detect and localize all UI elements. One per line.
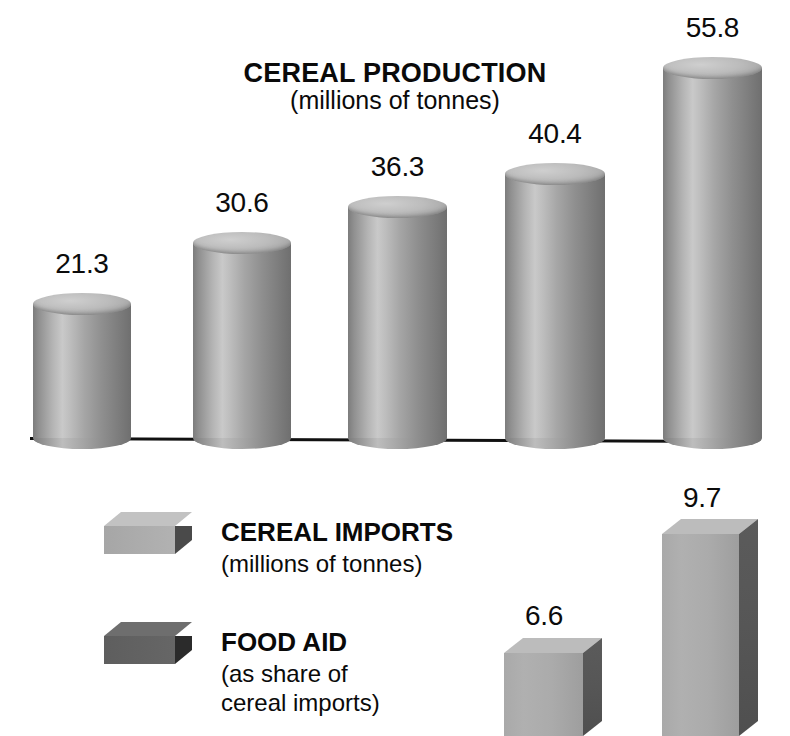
- bar-value-label-5: 55.8: [663, 12, 762, 44]
- legend-swatch-side-face: [175, 636, 192, 664]
- legend-swatch-front-face: [104, 636, 175, 664]
- legend-subtitle-food-aid-line1: (as share of: [221, 659, 348, 688]
- production-bar-2[interactable]: [193, 232, 291, 449]
- cylinder-body: [33, 304, 131, 438]
- legend-title-cereal-imports: CEREAL IMPORTS: [221, 517, 453, 548]
- bar-value-label-4: 40.4: [505, 118, 605, 150]
- box-front-face: [504, 653, 583, 736]
- bar-value-label-1: 21.3: [33, 248, 131, 280]
- legend-subtitle-food-aid-line2: cereal imports): [221, 688, 380, 717]
- legend-swatch-front-face: [104, 526, 175, 554]
- production-bar-5[interactable]: [663, 57, 762, 449]
- cylinder-top-shade: [193, 232, 291, 254]
- legend-title-food-aid: FOOD AID: [221, 627, 347, 658]
- box-side-face: [739, 519, 758, 736]
- cylinder-body: [193, 243, 291, 438]
- cylinder-top-shade: [505, 163, 605, 185]
- legend-swatch-top-face: [104, 512, 192, 526]
- bar-value-label-2: 30.6: [193, 187, 291, 219]
- production-bar-3[interactable]: [348, 196, 447, 449]
- legend-swatch-top-face: [104, 622, 192, 636]
- production-bar-4[interactable]: [505, 163, 605, 449]
- cylinder-body: [505, 174, 605, 438]
- production-bar-1[interactable]: [33, 293, 131, 449]
- cylinder-body: [348, 207, 447, 438]
- legend-swatch-cereal-imports: [104, 512, 209, 554]
- chart-canvas: 21.3 30.6 36.3 40.4 55.8 CEREAL PRODUCTI…: [0, 0, 790, 736]
- legend-subtitle-cereal-imports: (millions of tonnes): [221, 549, 422, 578]
- legend-swatch-food-aid: [104, 622, 209, 664]
- cylinder-top-shade: [348, 196, 447, 218]
- import-value-label-2: 9.7: [662, 482, 742, 514]
- import-value-label-1: 6.6: [504, 600, 584, 632]
- import-bar-1[interactable]: [504, 638, 602, 736]
- legend-swatch-side-face: [175, 526, 192, 554]
- box-front-face: [662, 534, 739, 736]
- cylinder-top-shade: [33, 293, 131, 315]
- box-side-face: [583, 638, 602, 736]
- import-bar-2[interactable]: [662, 519, 758, 736]
- bar-value-label-3: 36.3: [348, 151, 447, 183]
- cylinder-body: [663, 68, 762, 438]
- cylinder-top-shade: [663, 57, 762, 79]
